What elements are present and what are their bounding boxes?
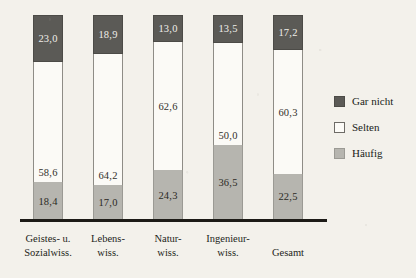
category-label-line: Ingenieur- bbox=[182, 232, 274, 246]
segment-selten: 64,2 bbox=[93, 54, 123, 186]
legend-swatch-icon bbox=[334, 148, 345, 159]
legend-swatch-icon bbox=[334, 122, 345, 133]
segment-selten: 60,3 bbox=[273, 50, 303, 174]
legend-swatch-icon bbox=[334, 96, 345, 107]
segment-haeufig: 22,5 bbox=[273, 174, 303, 220]
bar-stack: 17,260,322,5 bbox=[273, 15, 303, 220]
segment-selten: 62,6 bbox=[153, 42, 183, 170]
segment-selten: 50,0 bbox=[213, 43, 243, 146]
legend-label: Selten bbox=[352, 121, 380, 133]
bar-stack: 23,058,618,4 bbox=[33, 15, 63, 220]
category-label-line: Gesamt bbox=[242, 246, 334, 260]
category-label: Gesamt bbox=[242, 246, 334, 260]
bar-stack: 18,964,217,0 bbox=[93, 15, 123, 220]
segment-selten: 58,6 bbox=[33, 62, 63, 182]
bar-stack: 13,550,036,5 bbox=[213, 15, 243, 220]
x-axis-line bbox=[20, 219, 327, 222]
bar-stack: 13,062,624,3 bbox=[153, 15, 183, 220]
legend-item[interactable]: Häufig bbox=[334, 140, 414, 166]
segment-gar: 17,2 bbox=[273, 15, 303, 50]
segment-haeufig: 24,3 bbox=[153, 170, 183, 220]
segment-gar: 13,5 bbox=[213, 15, 243, 43]
stacked-bar-chart: 23,058,618,418,964,217,013,062,624,313,5… bbox=[0, 0, 416, 278]
segment-haeufig: 18,4 bbox=[33, 182, 63, 220]
legend-label: Häufig bbox=[352, 147, 383, 159]
segment-haeufig: 36,5 bbox=[213, 145, 243, 220]
segment-gar: 23,0 bbox=[33, 15, 63, 62]
legend-label: Gar nicht bbox=[352, 95, 393, 107]
legend-item[interactable]: Gar nicht bbox=[334, 88, 414, 114]
legend-item[interactable]: Selten bbox=[334, 114, 414, 140]
chart-legend: Gar nichtSeltenHäufig bbox=[334, 88, 414, 166]
segment-gar: 18,9 bbox=[93, 15, 123, 54]
segment-haeufig: 17,0 bbox=[93, 185, 123, 220]
segment-gar: 13,0 bbox=[153, 15, 183, 42]
